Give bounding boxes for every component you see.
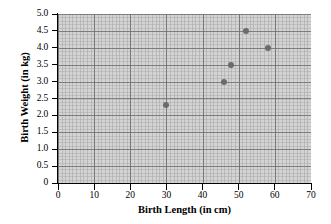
y-axis-tick xyxy=(52,14,58,15)
x-axis-tick-label: 50 xyxy=(225,190,253,200)
y-axis-tick xyxy=(52,64,58,65)
x-axis-tick-label: 70 xyxy=(297,190,325,200)
data-point xyxy=(265,45,271,51)
y-axis-tick xyxy=(52,47,58,48)
y-axis-title: Birth Weight (in kg) xyxy=(19,13,30,183)
x-axis-title: Birth Length (in cm) xyxy=(58,204,311,215)
y-axis-tick xyxy=(52,30,58,31)
y-axis-tick xyxy=(52,81,58,82)
plot-area xyxy=(58,14,311,183)
data-point xyxy=(221,79,227,85)
major-gridlines xyxy=(58,14,311,183)
y-axis-tick xyxy=(52,132,58,133)
x-axis-tick-label: 60 xyxy=(261,190,289,200)
x-axis-tick-label: 40 xyxy=(189,190,217,200)
x-axis-tick-label: 20 xyxy=(116,190,144,200)
y-axis-tick xyxy=(52,166,58,167)
y-axis-tick xyxy=(52,149,58,150)
scatter-plot-figure: 00.51.01.52.02.53.03.54.04.55.0 01020304… xyxy=(0,0,331,224)
y-axis-tick xyxy=(52,115,58,116)
y-axis-tick xyxy=(52,98,58,99)
data-point xyxy=(243,28,249,34)
x-axis-tick-label: 30 xyxy=(152,190,180,200)
x-axis-tick-label: 0 xyxy=(44,190,72,200)
x-axis-tick-label: 10 xyxy=(80,190,108,200)
